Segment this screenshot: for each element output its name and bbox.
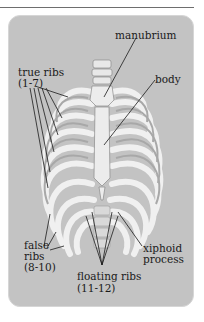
- label-false-ribs-range: (8-10): [24, 262, 56, 273]
- sternum-body-shape: [94, 107, 110, 186]
- manubrium-shape: [90, 86, 114, 106]
- xiphoid-shape: [99, 187, 105, 200]
- label-body: body: [155, 74, 181, 85]
- label-xiphoid-process: process: [143, 254, 184, 265]
- label-floating-ribs: floating ribs: [77, 271, 141, 282]
- label-true-ribs-range: (1-7): [18, 78, 43, 89]
- label-manubrium: manubrium: [115, 30, 177, 41]
- label-floating-ribs-range: (11-12): [77, 283, 115, 294]
